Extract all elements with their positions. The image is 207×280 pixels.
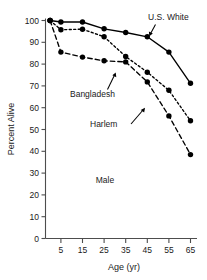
y-tick-label-50: 50	[30, 125, 40, 135]
y-tick-label-60: 60	[30, 103, 40, 113]
series-bangladesh	[47, 18, 193, 124]
x-tick-label-45: 45	[143, 245, 153, 255]
bangladesh-line	[50, 21, 190, 121]
harlem-line	[50, 21, 190, 155]
y-tick-label-90: 90	[30, 37, 40, 47]
axis-spines	[46, 19, 198, 239]
y-tick-label-10: 10	[30, 212, 40, 222]
harlem-arrow	[131, 110, 144, 125]
y-tick-label-20: 20	[30, 190, 40, 200]
x-tick-label-25: 25	[99, 245, 109, 255]
annotation-harlem: Harlem	[90, 108, 145, 129]
x-axis-ticks	[61, 239, 191, 244]
x-tick-label-5: 5	[59, 245, 64, 255]
chart-canvas: 100 90 80 70 60 50 40 30 20 10 0 5 15 25	[0, 0, 207, 280]
y-axis-ticks	[42, 21, 46, 239]
us-white-label: U.S. White	[148, 12, 189, 22]
bangladesh-label: Bangladesh	[70, 89, 115, 99]
y-tick-label-80: 80	[30, 59, 40, 69]
y-axis-tick-labels: 100 90 80 70 60 50 40 30 20 10 0	[25, 16, 39, 244]
x-tick-label-55: 55	[164, 245, 174, 255]
bangladesh-markers	[47, 18, 193, 124]
series-harlem	[47, 18, 193, 158]
x-axis-title: Age (yr)	[108, 262, 140, 272]
y-tick-label-40: 40	[30, 146, 40, 156]
y-tick-label-70: 70	[30, 81, 40, 91]
x-tick-label-35: 35	[121, 245, 131, 255]
harlem-label: Harlem	[90, 119, 117, 129]
y-tick-label-100: 100	[25, 16, 39, 26]
male-label: Male	[96, 175, 115, 185]
x-tick-label-65: 65	[186, 245, 196, 255]
annotation-us-white: U.S. White	[148, 12, 189, 36]
y-tick-label-0: 0	[34, 234, 39, 244]
annotation-bangladesh: Bangladesh	[70, 73, 116, 100]
y-tick-label-30: 30	[30, 168, 40, 178]
chart-figure: 100 90 80 70 60 50 40 30 20 10 0 5 15 25	[0, 0, 207, 280]
x-axis-tick-labels: 5 15 25 35 45 55 65	[59, 245, 196, 255]
bangladesh-arrow	[108, 75, 115, 90]
y-axis-title: Percent Alive	[6, 103, 16, 156]
harlem-markers	[47, 18, 193, 158]
x-tick-label-15: 15	[78, 245, 88, 255]
